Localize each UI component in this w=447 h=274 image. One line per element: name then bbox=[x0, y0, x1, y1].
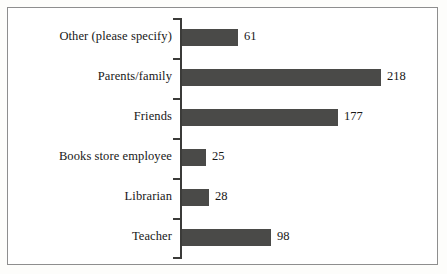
bar-category-label: Parents/family bbox=[12, 68, 172, 84]
bar-value-label: 177 bbox=[344, 108, 363, 124]
bar-value-label: 25 bbox=[212, 148, 225, 164]
bar-rect bbox=[182, 29, 238, 46]
bar-rect bbox=[182, 229, 271, 246]
bar-row: Friends 177 bbox=[0, 100, 447, 136]
bar-chart-figure: Other (please specify) 61 Parents/family… bbox=[0, 0, 447, 274]
bar-category-label: Other (please specify) bbox=[12, 28, 172, 44]
bar-category-label: Teacher bbox=[12, 228, 172, 244]
bar-row: Librarian 28 bbox=[0, 180, 447, 216]
plot-area: Other (please specify) 61 Parents/family… bbox=[0, 0, 447, 274]
bar-rect bbox=[182, 149, 206, 166]
bar-row: Parents/family 218 bbox=[0, 60, 447, 96]
bar-row: Teacher 98 bbox=[0, 220, 447, 256]
bar-row: Other (please specify) 61 bbox=[0, 20, 447, 56]
bar-category-label: Friends bbox=[12, 108, 172, 124]
bar-row: Books store employee 25 bbox=[0, 140, 447, 176]
bar-value-label: 218 bbox=[387, 68, 406, 84]
axis-tick-6 bbox=[173, 257, 181, 259]
bar-category-label: Librarian bbox=[12, 188, 172, 204]
bar-value-label: 28 bbox=[215, 188, 228, 204]
bar-category-label: Books store employee bbox=[12, 148, 172, 164]
bar-rect bbox=[182, 109, 338, 126]
bar-rect bbox=[182, 189, 209, 206]
bar-rect bbox=[182, 69, 381, 86]
bar-value-label: 98 bbox=[277, 228, 290, 244]
bar-value-label: 61 bbox=[244, 28, 257, 44]
